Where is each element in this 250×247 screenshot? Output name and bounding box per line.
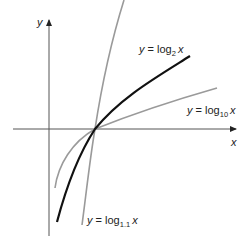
label-log10: y = log10x: [186, 104, 236, 119]
label-log2: y = log2x: [138, 43, 184, 58]
curve-log10: [55, 88, 217, 188]
x-axis-label: x: [230, 136, 237, 148]
logarithm-graph: y x y = log2x y = log10x y = log1.1x: [0, 0, 250, 247]
curve-log2: [57, 56, 190, 222]
label-log1-1: y = log1.1x: [86, 214, 138, 229]
curve-log1-1: [82, 0, 124, 225]
y-axis-label: y: [36, 16, 44, 28]
